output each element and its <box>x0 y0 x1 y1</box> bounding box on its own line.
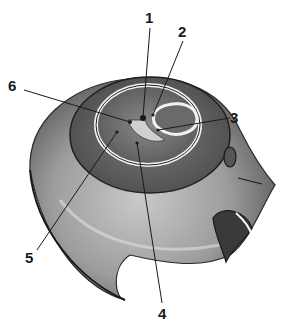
label-1: 1 <box>145 10 153 25</box>
label-5: 5 <box>25 250 33 265</box>
label-6: 6 <box>8 78 16 93</box>
label-2: 2 <box>178 24 186 39</box>
apical-turn <box>96 85 200 165</box>
label-4: 4 <box>158 306 166 321</box>
label-3: 3 <box>230 110 238 125</box>
cochlea-illustration <box>0 0 281 332</box>
